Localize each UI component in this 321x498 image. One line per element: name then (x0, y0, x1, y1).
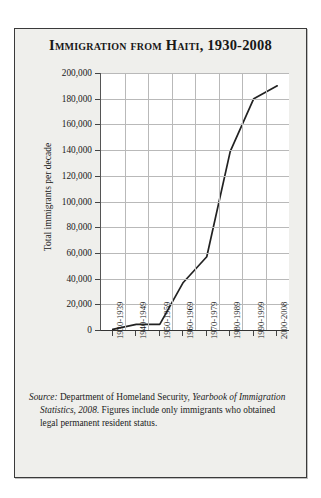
y-tick-mark (95, 330, 100, 331)
x-tick-label: 1990-1999 (256, 302, 266, 339)
x-tick-label: 1950-1959 (162, 302, 172, 339)
x-gridline (219, 73, 220, 330)
y-tick-mark (95, 227, 100, 228)
y-tick-mark (95, 99, 100, 100)
x-tick-mark (112, 331, 113, 336)
x-gridline (125, 73, 126, 330)
y-tick-label: 120,000 (15, 171, 92, 181)
y-tick-label: 40,000 (15, 274, 92, 284)
y-tick-label: 180,000 (15, 94, 92, 104)
x-tick-mark (135, 331, 136, 336)
x-tick-label: 1970-1979 (209, 302, 219, 339)
y-tick-mark (95, 150, 100, 151)
plot-wrapper: Total immigrants per decade 020,00040,00… (15, 67, 308, 367)
x-tick-mark (229, 331, 230, 336)
y-tick-label: 80,000 (15, 222, 92, 232)
x-tick-mark (253, 331, 254, 336)
source-body: Department of Homeland Security, (58, 392, 193, 402)
x-tick-label: 2000-2008 (279, 302, 289, 339)
y-tick-label: 140,000 (15, 145, 92, 155)
y-tick-label: 160,000 (15, 119, 92, 129)
y-tick-mark (95, 253, 100, 254)
y-tick-mark (95, 176, 100, 177)
plot-area (100, 73, 289, 331)
x-tick-label: 1960-1969 (185, 302, 195, 339)
y-tick-mark (95, 279, 100, 280)
source-label: Source: (29, 392, 58, 402)
y-tick-mark (95, 202, 100, 203)
x-tick-label: 1940-1949 (138, 302, 148, 339)
chart-title: Immigration from Haiti, 1930-2008 (15, 37, 306, 54)
y-tick-label: 20,000 (15, 299, 92, 309)
source-note: Source: Department of Homeland Security,… (29, 391, 294, 431)
y-tick-mark (95, 73, 100, 74)
y-tick-label: 100,000 (15, 197, 92, 207)
y-tick-mark (95, 124, 100, 125)
y-tick-mark (95, 304, 100, 305)
x-tick-mark (159, 331, 160, 336)
x-tick-mark (206, 331, 207, 336)
x-gridline (148, 73, 149, 330)
y-tick-label: 0 (15, 325, 92, 335)
y-tick-label: 60,000 (15, 248, 92, 258)
x-tick-mark (182, 331, 183, 336)
y-tick-label: 200,000 (15, 68, 92, 78)
x-gridline (242, 73, 243, 330)
x-tick-label: 1930-1939 (115, 302, 125, 339)
figure-panel: Immigration from Haiti, 1930-2008 Total … (14, 28, 307, 478)
x-tick-mark (276, 331, 277, 336)
x-gridline (172, 73, 173, 330)
x-tick-label: 1980-1989 (232, 302, 242, 339)
x-gridline (195, 73, 196, 330)
x-gridline (266, 73, 267, 330)
